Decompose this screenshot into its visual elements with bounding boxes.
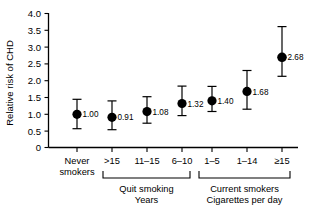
chart-container: Relative risk of CHD 4.0 3.5 3.0 2.5 2.0… [0,0,311,219]
y-tick-label-1-5: 1.5 [28,92,41,103]
x-tick-label-6-10: 6–10 [172,156,193,166]
data-label-2-68: 2.68 [288,53,304,62]
y-tick-label-0: 0 [36,142,41,153]
x-tick-label-gte15: ≥15 [274,156,289,166]
data-label-1-08: 1.08 [153,108,169,117]
x-axis-ticks [77,148,282,153]
relative-risk-chd-chart: Relative risk of CHD 4.0 3.5 3.0 2.5 2.0… [0,0,311,219]
y-tick-label-3-5: 3.5 [28,25,41,36]
data-label-1-00: 1.00 [83,110,99,119]
group-label-cigarettes-per-day: Cigarettes per day [207,195,283,205]
data-point-quit-6-10: 1.32 [177,86,203,116]
marker [142,107,151,116]
y-tick-label-4-0: 4.0 [28,8,41,19]
data-point-never-smokers: 1.00 [72,99,98,128]
data-label-1-32: 1.32 [188,100,204,109]
data-point-current-1-5: 1.40 [207,86,233,111]
group-label-quit-smoking: Quit smoking [119,184,173,194]
y-tick-label-2-0: 2.0 [28,75,41,86]
y-tick-label-3-0: 3.0 [28,42,41,53]
data-label-1-40: 1.40 [218,97,234,106]
marker [72,110,81,119]
x-tick-label-never-line1: Never [65,156,90,166]
x-tick-label-11-15: 11–15 [134,156,159,166]
marker [242,87,251,96]
marker [207,96,216,105]
marker [277,53,287,63]
group-label-years: Years [135,195,159,205]
data-label-1-68: 1.68 [253,88,269,97]
x-tick-label-never-line2: smokers [59,167,94,177]
x-axis-tick-labels: Never smokers >15 11–15 6–10 1–5 1–14 ≥1… [59,156,289,177]
x-tick-label-1-14: 1–14 [237,156,258,166]
group-bracket-current-smokers: Current smokers Cigarettes per day [199,171,290,205]
data-point-current-gte15: 2.68 [277,27,304,77]
data-point-quit-gt15: 0.91 [107,101,133,130]
y-tick-label-0-5: 0.5 [28,126,41,137]
data-point-current-1-14: 1.68 [242,71,268,110]
data-label-0-91: 0.91 [118,113,134,122]
marker [177,99,186,108]
group-bracket-quit-smoking: Quit smoking Years [103,171,190,205]
x-tick-label-1-5: 1–5 [204,156,220,166]
group-label-current-smokers: Current smokers [210,184,279,194]
data-point-quit-11-15: 1.08 [142,97,168,124]
y-tick-label-2-5: 2.5 [28,58,41,69]
x-tick-label-gt15: >15 [104,156,120,166]
y-axis-tick-labels: 4.0 3.5 3.0 2.5 2.0 1.5 1.0 0.5 0 [28,8,41,153]
y-tick-label-1-0: 1.0 [28,109,41,120]
marker [107,113,116,122]
y-axis-title: Relative risk of CHD [4,40,15,126]
